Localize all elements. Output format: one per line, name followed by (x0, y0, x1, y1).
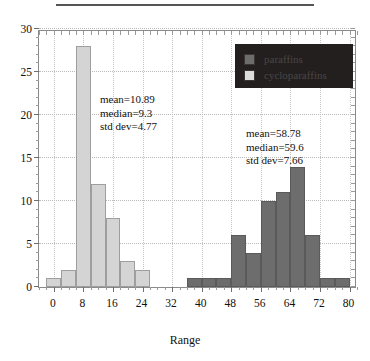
histogram-bar-paraffins (305, 235, 320, 287)
histogram-bar-paraffins (216, 278, 231, 287)
x-axis-tick-major (350, 287, 351, 292)
x-axis-tick-top (350, 31, 351, 35)
stats-stddev-cycloparaffins: std dev=4.77 (100, 120, 157, 134)
x-axis-tick-minor (209, 287, 210, 290)
x-axis-tick-top (209, 31, 210, 35)
x-axis-tick-top (276, 31, 277, 35)
x-axis-tick-minor (120, 287, 121, 290)
x-axis-tick-label: 80 (334, 298, 364, 310)
histogram-bar-cycloparaffins (46, 278, 61, 287)
y-axis-tick-label: 5 (0, 239, 32, 251)
x-axis-tick-top (69, 31, 70, 35)
y-axis-tick-right (351, 123, 355, 124)
y-axis-tick-label: 15 (0, 153, 32, 165)
x-axis-tick-major (320, 287, 321, 292)
x-axis-tick-top (39, 31, 40, 35)
x-axis-tick-minor (224, 287, 225, 290)
x-axis-tick-minor (39, 287, 40, 290)
x-axis-tick-top (157, 31, 158, 35)
y-axis-tick-right (351, 243, 355, 244)
x-axis-tick-top (320, 31, 321, 35)
y-axis-tick-right (351, 157, 355, 158)
x-axis-tick-label: 24 (127, 298, 157, 310)
x-axis-tick-minor (61, 287, 62, 290)
x-axis-tick-minor (91, 287, 92, 290)
x-axis-tick-label: 64 (274, 298, 304, 310)
x-axis-tick-label: 16 (97, 298, 127, 310)
y-axis-tick-minor (36, 45, 39, 46)
histogram-bar-paraffins (320, 278, 335, 287)
x-axis-tick-minor (187, 287, 188, 290)
x-axis-tick-top (224, 31, 225, 35)
x-axis-tick-minor (313, 287, 314, 290)
y-axis-tick-minor (36, 131, 39, 132)
y-axis-tick-right (351, 105, 355, 106)
y-axis-tick-minor (36, 148, 39, 149)
y-axis-tick-label: 25 (0, 67, 32, 79)
x-axis-tick-minor (135, 287, 136, 290)
x-axis-tick-major (113, 287, 114, 292)
x-axis-tick-top (172, 31, 173, 35)
x-axis-tick-top (335, 31, 336, 35)
histogram-bar-cycloparaffins (135, 270, 150, 287)
x-axis-tick-top (268, 31, 269, 35)
histogram-bar-paraffins (276, 192, 291, 287)
y-axis-tick-minor (36, 80, 39, 81)
x-axis-tick-top (76, 31, 77, 35)
histogram-bar-paraffins (246, 253, 261, 287)
x-axis-tick-top (46, 31, 47, 35)
x-axis-tick-top (231, 31, 232, 35)
histogram-bar-paraffins (261, 201, 276, 287)
histogram-bar-cycloparaffins (61, 270, 76, 287)
x-axis-tick-top (298, 31, 299, 35)
y-axis-tick-right (351, 114, 355, 115)
x-axis-tick-top (357, 31, 358, 35)
y-axis-tick-right (351, 183, 355, 184)
y-axis-tick-right (351, 28, 355, 29)
y-axis-tick-right (351, 174, 355, 175)
x-axis-tick-minor (268, 287, 269, 290)
x-axis-tick-top (313, 31, 314, 35)
gridline-vertical (143, 31, 144, 287)
x-axis-tick-label: 48 (215, 298, 245, 310)
x-axis-tick-top (150, 31, 151, 35)
histogram-bar-cycloparaffins (120, 261, 135, 287)
y-axis-tick-right (351, 217, 355, 218)
x-axis-tick-minor (106, 287, 107, 290)
x-axis-tick-top (91, 31, 92, 35)
x-axis-tick-minor (327, 287, 328, 290)
x-axis-title: Range (0, 333, 370, 348)
x-axis-tick-top (143, 31, 144, 35)
y-axis-tick-minor (36, 269, 39, 270)
y-axis-tick-label: 0 (0, 282, 32, 294)
x-axis-tick-label: 32 (156, 298, 186, 310)
x-axis-tick-minor (69, 287, 70, 290)
chart-legend[interactable]: paraffins cycloparaffins (235, 44, 353, 88)
legend-item-paraffins[interactable]: paraffins (244, 51, 344, 67)
legend-label-cycloparaffins: cycloparaffins (264, 69, 327, 81)
legend-item-cycloparaffins[interactable]: cycloparaffins (244, 67, 344, 83)
y-axis-tick-right (351, 140, 355, 141)
y-axis-tick-label: 10 (0, 196, 32, 208)
stats-annotation-paraffins: mean=58.78 median=59.6 std dev=7.66 (246, 127, 304, 168)
x-axis-tick-minor (194, 287, 195, 290)
y-axis-tick-major (34, 114, 39, 115)
gridline-vertical (202, 31, 203, 287)
y-axis-tick-right (351, 234, 355, 235)
x-axis-tick-top (253, 31, 254, 35)
histogram-bar-cycloparaffins (106, 218, 121, 287)
x-axis-tick-minor (283, 287, 284, 290)
y-axis-tick-right (351, 252, 355, 253)
y-axis-tick-right (351, 148, 355, 149)
x-axis-tick-top (54, 31, 55, 35)
stats-median-paraffins: median=59.6 (246, 141, 304, 155)
y-axis-tick-major (34, 28, 39, 29)
x-axis-tick-major (143, 287, 144, 292)
x-axis-tick-top (327, 31, 328, 35)
x-axis-tick-minor (239, 287, 240, 290)
x-axis-tick-minor (165, 287, 166, 290)
x-axis-tick-top (305, 31, 306, 35)
x-axis-tick-minor (253, 287, 254, 290)
histogram-figure: paraffins cycloparaffins mean=10.89 medi… (0, 0, 370, 361)
x-axis-tick-top (342, 31, 343, 35)
